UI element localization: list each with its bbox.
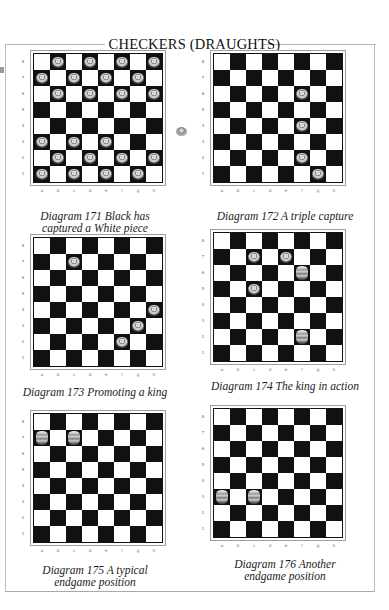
square-a7 bbox=[214, 249, 230, 265]
square-a2 bbox=[214, 505, 230, 521]
rank-label: 5 bbox=[199, 107, 207, 112]
rank-label: 6 bbox=[19, 451, 27, 456]
square-h4 bbox=[326, 118, 342, 134]
square-d7 bbox=[82, 430, 98, 446]
square-f5 bbox=[294, 281, 310, 297]
square-a3 bbox=[214, 313, 230, 329]
rank-label: 4 bbox=[199, 302, 207, 307]
square-b4 bbox=[50, 302, 66, 318]
square-h6 bbox=[326, 265, 342, 281]
square-a8 bbox=[34, 238, 50, 254]
square-h6 bbox=[146, 86, 162, 102]
square-f1 bbox=[294, 521, 310, 537]
checker-piece-icon bbox=[116, 57, 128, 67]
square-h8 bbox=[146, 238, 162, 254]
square-b3 bbox=[50, 494, 66, 510]
square-f6 bbox=[114, 270, 130, 286]
square-a4 bbox=[34, 118, 50, 134]
board-border bbox=[213, 232, 343, 362]
square-f6 bbox=[114, 86, 130, 102]
square-e7 bbox=[98, 254, 114, 270]
checker-piece-icon bbox=[52, 57, 64, 67]
square-g8 bbox=[130, 54, 146, 70]
square-g5 bbox=[130, 102, 146, 118]
rank-label: 8 bbox=[19, 59, 27, 64]
square-e5 bbox=[278, 281, 294, 297]
square-g1 bbox=[310, 521, 326, 537]
square-f8 bbox=[114, 54, 130, 70]
rank-label: 2 bbox=[199, 510, 207, 515]
file-label: b bbox=[230, 188, 246, 193]
square-f2 bbox=[114, 334, 130, 350]
square-a5 bbox=[34, 102, 50, 118]
square-c7 bbox=[246, 425, 262, 441]
square-e6 bbox=[98, 86, 114, 102]
square-h5 bbox=[146, 102, 162, 118]
rank-label: 1 bbox=[19, 171, 27, 176]
square-c6 bbox=[246, 441, 262, 457]
square-g3 bbox=[310, 313, 326, 329]
square-d1 bbox=[262, 166, 278, 182]
rank-label: 1 bbox=[199, 350, 207, 355]
diagram-caption-174: Diagram 174 The king in action bbox=[200, 380, 370, 392]
square-a2 bbox=[34, 510, 50, 526]
square-f4 bbox=[294, 473, 310, 489]
square-e3 bbox=[278, 489, 294, 505]
square-g3 bbox=[130, 494, 146, 510]
square-h3 bbox=[146, 134, 162, 150]
square-h2 bbox=[146, 510, 162, 526]
square-b3 bbox=[230, 134, 246, 150]
square-a4 bbox=[214, 297, 230, 313]
checker-piece-icon bbox=[296, 153, 308, 163]
checkerboard-174 bbox=[210, 229, 346, 365]
square-c8 bbox=[246, 233, 262, 249]
square-g7 bbox=[310, 425, 326, 441]
square-d2 bbox=[82, 150, 98, 166]
square-f4 bbox=[114, 478, 130, 494]
file-label: g bbox=[130, 372, 146, 377]
square-f5 bbox=[114, 102, 130, 118]
board-border bbox=[33, 53, 163, 183]
square-g2 bbox=[310, 329, 326, 345]
file-label: a bbox=[214, 543, 230, 548]
caption-line: Diagram 171 Black has bbox=[10, 210, 180, 222]
square-a7 bbox=[34, 254, 50, 270]
square-a3 bbox=[214, 489, 230, 505]
square-f7 bbox=[114, 254, 130, 270]
square-c5 bbox=[246, 457, 262, 473]
square-g3 bbox=[130, 134, 146, 150]
diagram-caption-171: Diagram 171 Black hascaptured a White pi… bbox=[10, 210, 180, 234]
square-h4 bbox=[146, 118, 162, 134]
square-h7 bbox=[326, 425, 342, 441]
square-b6 bbox=[50, 446, 66, 462]
file-label: e bbox=[278, 543, 294, 548]
square-c4 bbox=[66, 118, 82, 134]
square-f6 bbox=[294, 265, 310, 281]
square-b5 bbox=[50, 462, 66, 478]
square-d4 bbox=[82, 302, 98, 318]
square-f8 bbox=[294, 233, 310, 249]
square-f1 bbox=[114, 166, 130, 182]
file-label: f bbox=[114, 548, 130, 553]
file-label: f bbox=[114, 372, 130, 377]
square-d5 bbox=[82, 102, 98, 118]
square-f2 bbox=[294, 150, 310, 166]
square-g1 bbox=[310, 345, 326, 361]
checker-piece-icon bbox=[148, 89, 160, 99]
square-e7 bbox=[278, 425, 294, 441]
checker-piece-icon bbox=[116, 153, 128, 163]
square-h7 bbox=[326, 249, 342, 265]
square-f3 bbox=[294, 134, 310, 150]
square-e8 bbox=[98, 238, 114, 254]
board-squares bbox=[214, 233, 342, 361]
square-c5 bbox=[246, 281, 262, 297]
king-piece-icon bbox=[216, 490, 228, 503]
square-f1 bbox=[114, 350, 130, 366]
rank-label: 6 bbox=[199, 91, 207, 96]
square-d3 bbox=[262, 134, 278, 150]
file-label: g bbox=[310, 188, 326, 193]
file-label: h bbox=[146, 188, 162, 193]
checker-piece-icon bbox=[100, 137, 112, 147]
rank-label: 8 bbox=[199, 59, 207, 64]
square-h3 bbox=[146, 494, 162, 510]
